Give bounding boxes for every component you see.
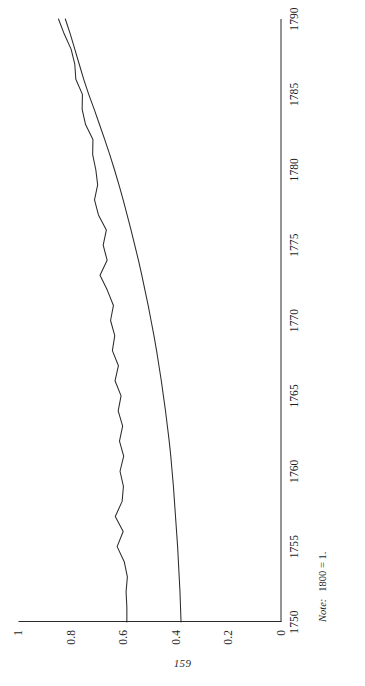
- x-tick-1785: 1785: [288, 83, 300, 106]
- figure-note: Note:1800 = 1.: [316, 552, 327, 622]
- x-tick-1780: 1780: [288, 158, 300, 181]
- figure: 175017551760176517701775178017851790 00.…: [0, 0, 365, 686]
- book-page: 175017551760176517701775178017851790 00.…: [0, 0, 365, 686]
- series-line-volatile: [58, 19, 127, 622]
- x-tick-1790: 1790: [288, 7, 300, 30]
- x-tick-1755: 1755: [288, 535, 300, 558]
- x-tick-1770: 1770: [288, 309, 300, 332]
- x-tick-1775: 1775: [288, 233, 300, 256]
- x-tick-1765: 1765: [288, 384, 300, 407]
- note-text: 1800 = 1.: [316, 552, 327, 592]
- note-label: Note:: [316, 599, 327, 622]
- rotated-figure-stage: 175017551760176517701775178017851790 00.…: [0, 0, 365, 686]
- page-number: 159: [0, 657, 365, 669]
- x-tick-1750: 1750: [288, 610, 300, 633]
- x-tick-1760: 1760: [288, 460, 300, 483]
- plot-area: [18, 19, 281, 622]
